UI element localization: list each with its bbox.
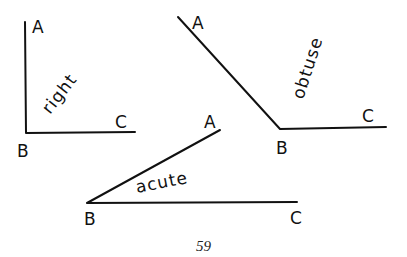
right-angle: A B C right xyxy=(17,17,135,161)
page-number: 59 xyxy=(196,238,212,254)
right-angle-label-a: A xyxy=(32,17,44,37)
right-angle-label-b: B xyxy=(17,141,29,161)
acute-angle-label-b: B xyxy=(84,209,96,229)
acute-angle-label-c: C xyxy=(290,208,302,228)
obtuse-angle-label-c: C xyxy=(362,106,374,126)
diagram-canvas: A B C right A B C obtuse A B C acute 59 xyxy=(0,0,407,257)
right-angle-label-c: C xyxy=(115,112,127,132)
obtuse-angle-label-b: B xyxy=(276,138,288,158)
obtuse-angle-name: obtuse xyxy=(288,34,327,101)
right-angle-name: right xyxy=(37,70,80,118)
obtuse-angle-label-a: A xyxy=(192,13,204,33)
acute-angle-label-a: A xyxy=(204,112,216,132)
acute-angle-rays xyxy=(87,130,297,203)
angle-types-diagram: A B C right A B C obtuse A B C acute 59 xyxy=(0,0,407,257)
